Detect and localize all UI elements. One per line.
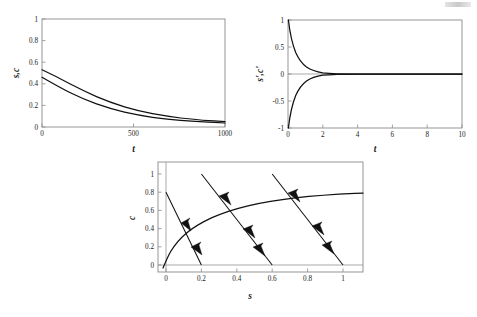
panel2-ytick-3: 0.5 (275, 44, 284, 52)
plot-frame (42, 19, 225, 127)
arrowhead-1a (181, 218, 191, 231)
panel3-yticks: 0 0.2 0.4 0.6 0.8 1 (145, 171, 161, 270)
panel2-yticks: -1 -0.5 0 0.5 1 (273, 17, 292, 133)
panel-phase-portrait-svg: 0 0.2 0.4 0.6 0.8 1 0 0.2 0.4 0.6 0.8 1 (125, 155, 375, 317)
panel1-xtick-1: 500 (128, 130, 139, 138)
arrowhead-3c (322, 241, 334, 254)
panel2-ytick-1: -0.5 (273, 98, 285, 106)
panel1-ytick-1: 0.2 (29, 102, 38, 110)
panel3-xtick-4: 0.8 (303, 275, 312, 283)
panel1-xtick-0: 0 (40, 130, 44, 138)
panel2-xtick-0: 0 (286, 131, 290, 139)
plot-frame (158, 162, 363, 272)
panel1-ytick-3: 0.6 (29, 59, 38, 67)
panel3-ytick-1: 0.2 (145, 243, 154, 251)
panel1-ylabel: s,c (11, 67, 21, 79)
panel2-xlabel: t (374, 144, 377, 154)
panel-time-series: 0 0.2 0.4 0.6 0.8 1 0 500 1000 t s,c (0, 0, 240, 160)
panel1-yticks: 0 0.2 0.4 0.6 0.8 1 (29, 16, 45, 132)
panel2-xtick-3: 6 (391, 131, 395, 139)
panel-time-series-svg: 0 0.2 0.4 0.6 0.8 1 0 500 1000 t s,c (0, 0, 240, 160)
panel1-frame-group (42, 19, 225, 127)
panel3-ytick-2: 0.4 (145, 225, 154, 233)
panel1-curves (42, 70, 225, 123)
panel1-xticks: 0 500 1000 (40, 124, 232, 139)
panel3-xtick-1: 0.2 (197, 275, 206, 283)
panel2-xtick-5: 10 (458, 131, 466, 139)
panel-derivatives: -1 -0.5 0 0.5 1 0 2 4 6 8 10 (245, 0, 477, 160)
panel1-ytick-4: 0.8 (29, 37, 38, 45)
panel3-ytick-0: 0 (150, 262, 154, 270)
panel3-xtick-3: 0.6 (268, 275, 277, 283)
panel3-xtick-0: 0 (164, 275, 168, 283)
panel1-xlabel: t (132, 144, 135, 154)
arrowhead-1b (191, 242, 202, 255)
panel2-ylabel: s',c' (255, 66, 265, 83)
arrowhead-3a (288, 189, 300, 202)
panel3-frame-group (158, 162, 363, 272)
panel-derivatives-svg: -1 -0.5 0 0.5 1 0 2 4 6 8 10 (245, 0, 477, 160)
panel2-ytick-2: 0 (280, 71, 284, 79)
panel3-ytick-4: 0.8 (145, 189, 154, 197)
panel1-xtick-2: 1000 (218, 130, 233, 138)
panel2-xticks: 0 2 4 6 8 10 (286, 125, 466, 140)
panel3-xtick-5: 1 (341, 275, 345, 283)
panel3-trajectories (166, 174, 343, 265)
panel2-xtick-2: 4 (356, 131, 360, 139)
panel3-xticks: 0 0.2 0.4 0.6 0.8 1 (164, 269, 345, 284)
panel3-xlabel: s (247, 291, 252, 301)
panel2-ytick-4: 1 (280, 17, 284, 25)
panel1-ytick-0: 0 (34, 124, 38, 132)
panel1-ytick-5: 1 (34, 16, 38, 24)
curve-s-prime (288, 20, 462, 74)
panel1-ytick-2: 0.4 (29, 80, 38, 88)
panel-phase-portrait: 0 0.2 0.4 0.6 0.8 1 0 0.2 0.4 0.6 0.8 1 (125, 155, 375, 317)
figure-container: 0 0.2 0.4 0.6 0.8 1 0 500 1000 t s,c (0, 0, 477, 317)
arrowhead-2c (253, 243, 265, 256)
nullcline-curve (163, 193, 363, 268)
panel2-xtick-1: 2 (321, 131, 325, 139)
arrowhead-2b (243, 225, 255, 238)
panel3-arrowheads (181, 189, 334, 256)
panel3-ylabel: c (127, 215, 137, 220)
panel3-xtick-2: 0.4 (232, 275, 241, 283)
panel2-ytick-0: -1 (278, 125, 284, 133)
panel3-ytick-3: 0.6 (145, 207, 154, 215)
panel3-ytick-5: 1 (150, 171, 154, 179)
panel2-xtick-4: 8 (425, 131, 429, 139)
curve-c-prime (288, 74, 462, 128)
trajectory-1 (166, 192, 201, 265)
